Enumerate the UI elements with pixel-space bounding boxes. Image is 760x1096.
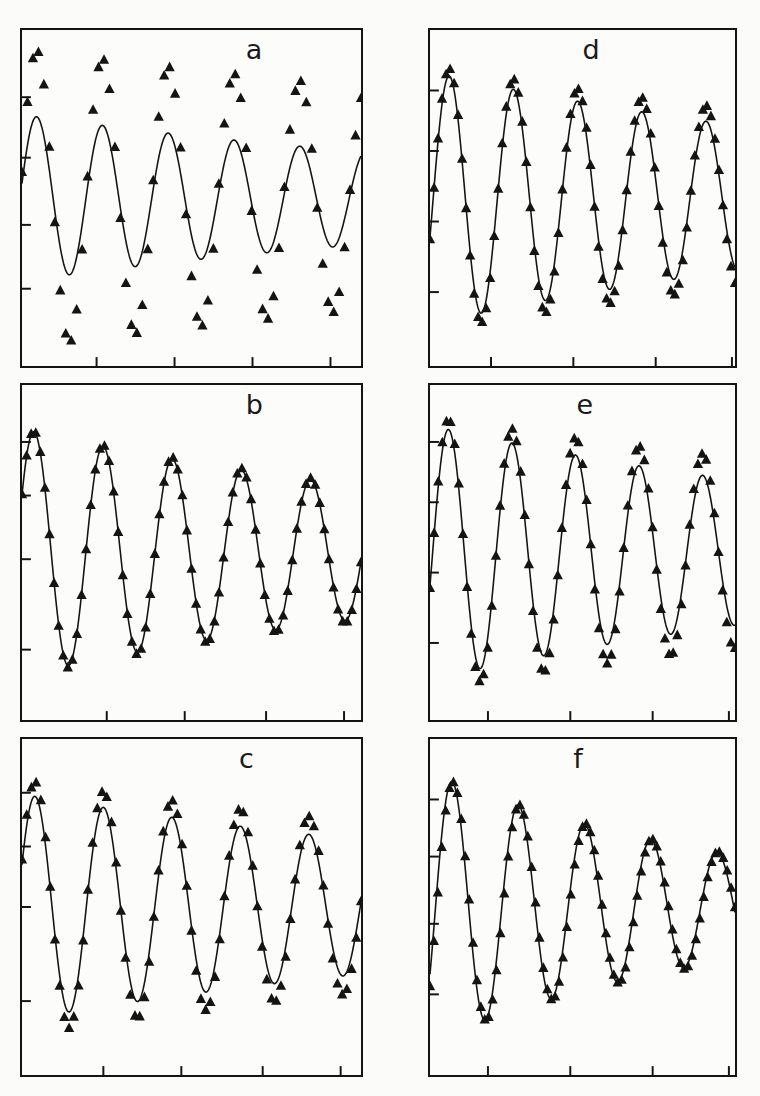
panel-d: d — [428, 28, 737, 368]
data-point-marker — [49, 577, 59, 587]
data-point-marker — [430, 234, 435, 244]
data-point-marker — [516, 466, 526, 476]
data-point-marker — [671, 944, 681, 954]
data-point-marker — [722, 865, 732, 875]
data-point-marker — [519, 809, 529, 819]
data-point-marker — [449, 78, 459, 88]
panel-c-data-markers — [22, 777, 361, 1032]
panel-d-label: d — [583, 36, 601, 63]
data-point-marker — [329, 306, 339, 316]
data-point-marker — [485, 272, 495, 282]
data-point-marker — [292, 523, 302, 533]
data-point-marker — [304, 811, 314, 821]
data-point-marker — [45, 881, 55, 891]
data-point-marker — [196, 624, 206, 634]
panel-d-data-markers — [430, 63, 735, 326]
data-point-marker — [141, 622, 151, 632]
data-point-marker — [593, 241, 603, 251]
data-point-marker — [730, 277, 735, 287]
data-point-marker — [441, 805, 451, 815]
data-point-marker — [175, 142, 185, 152]
data-point-marker — [168, 452, 178, 462]
data-point-marker — [659, 877, 669, 887]
data-point-marker — [31, 777, 41, 787]
data-point-marker — [229, 819, 239, 829]
data-point-marker — [528, 605, 538, 615]
panel-a-fit-curve — [22, 117, 361, 275]
data-point-marker — [573, 83, 583, 93]
data-point-marker — [116, 905, 126, 915]
data-point-marker — [69, 1011, 79, 1021]
data-point-marker — [137, 299, 147, 309]
panel-f-plot-area — [430, 739, 735, 1075]
data-point-marker — [610, 624, 620, 634]
data-point-marker — [318, 880, 328, 890]
data-point-marker — [59, 1011, 69, 1021]
data-point-marker — [268, 291, 278, 301]
panel-b-axis-ticks — [22, 442, 344, 720]
data-point-marker — [623, 500, 633, 510]
data-point-marker — [660, 633, 670, 643]
panel-f-data-markers — [430, 777, 735, 1024]
data-point-marker — [285, 913, 295, 923]
data-point-marker — [64, 1022, 74, 1032]
panel-d-plot-area — [430, 30, 735, 366]
data-point-marker — [148, 175, 158, 185]
data-point-marker — [635, 441, 645, 451]
data-point-marker — [83, 884, 93, 894]
data-point-marker — [215, 934, 225, 944]
data-point-marker — [667, 924, 677, 934]
data-point-marker — [501, 101, 511, 111]
data-point-marker — [44, 529, 54, 539]
data-point-marker — [594, 623, 604, 633]
data-point-marker — [489, 230, 499, 240]
data-point-marker — [73, 980, 83, 990]
data-point-marker — [324, 554, 334, 564]
data-point-marker — [430, 182, 439, 192]
data-point-marker — [90, 464, 100, 474]
data-point-marker — [647, 522, 657, 532]
data-point-marker — [252, 264, 262, 274]
data-point-marker — [553, 570, 563, 580]
data-point-marker — [279, 181, 289, 191]
data-point-marker — [296, 496, 306, 506]
data-point-marker — [691, 934, 701, 944]
data-point-marker — [525, 202, 535, 212]
data-point-marker — [650, 162, 660, 172]
data-point-marker — [203, 295, 213, 305]
data-point-marker — [524, 559, 534, 569]
data-point-marker — [99, 54, 109, 64]
data-point-marker — [658, 237, 668, 247]
data-point-marker — [699, 891, 709, 901]
data-point-marker — [136, 643, 146, 653]
data-point-marker — [643, 483, 653, 493]
data-point-marker — [466, 628, 476, 638]
data-point-marker — [632, 890, 642, 900]
data-point-marker — [613, 260, 623, 270]
data-point-marker — [622, 185, 632, 195]
data-point-marker — [430, 527, 439, 537]
data-point-marker — [586, 539, 596, 549]
data-point-marker — [350, 130, 360, 140]
panel-b-label: b — [246, 391, 264, 418]
data-point-marker — [72, 628, 82, 638]
data-point-marker — [549, 266, 559, 276]
data-point-marker — [680, 560, 690, 570]
data-point-marker — [470, 661, 480, 671]
data-point-marker — [126, 319, 136, 329]
data-point-marker — [210, 971, 220, 981]
panel-a-data-markers — [22, 46, 361, 344]
data-point-marker — [110, 141, 120, 151]
data-point-marker — [654, 200, 664, 210]
data-point-marker — [315, 497, 325, 507]
data-point-marker — [345, 184, 355, 194]
data-point-marker — [356, 896, 361, 906]
data-point-marker — [656, 603, 666, 613]
data-point-marker — [454, 478, 464, 488]
data-point-marker — [264, 613, 274, 623]
data-point-marker — [319, 524, 329, 534]
data-point-marker — [257, 304, 267, 314]
data-point-marker — [529, 245, 539, 255]
data-point-marker — [177, 839, 187, 849]
data-point-marker — [318, 258, 328, 268]
